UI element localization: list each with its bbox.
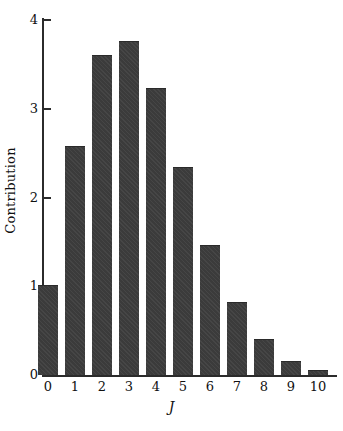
bar <box>119 41 139 375</box>
x-tick-label: 7 <box>222 380 252 394</box>
x-tick-label: 0 <box>33 380 63 394</box>
x-tick-label: 8 <box>249 380 279 394</box>
x-tick-label: 4 <box>141 380 171 394</box>
bar <box>254 339 274 375</box>
bar <box>173 167 193 375</box>
bar <box>146 88 166 375</box>
bar <box>92 55 112 376</box>
bar <box>308 370 328 375</box>
bar <box>38 285 58 375</box>
x-tick-label: 9 <box>276 380 306 394</box>
x-axis-line <box>42 375 337 377</box>
bar <box>281 361 301 375</box>
x-tick-label: 3 <box>114 380 144 394</box>
x-tick-label: 6 <box>195 380 225 394</box>
x-tick-label: 1 <box>60 380 90 394</box>
bar <box>65 146 85 375</box>
x-tick-label: 10 <box>303 380 333 394</box>
bar <box>227 302 247 375</box>
bar-chart-figure: Contribution 01234 012345678910 J <box>0 0 343 431</box>
x-axis-title: J <box>0 399 343 415</box>
plot-area <box>0 0 343 375</box>
x-tick-label: 5 <box>168 380 198 394</box>
bar <box>200 245 220 375</box>
x-tick-label: 2 <box>87 380 117 394</box>
